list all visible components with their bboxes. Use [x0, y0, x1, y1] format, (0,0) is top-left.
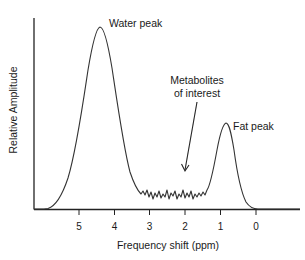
tick-label-1: 1: [218, 221, 224, 232]
water-peak-label: Water peak: [109, 17, 163, 29]
tick-label-5: 5: [76, 221, 82, 232]
metabolites-arrow-icon: [182, 102, 198, 171]
spectrum-line: [34, 27, 300, 209]
tick-label-3: 3: [147, 221, 153, 232]
tick-label-0: 0: [253, 221, 259, 232]
fat-peak-label: Fat peak: [233, 120, 275, 132]
metabolites-label-line2: of interest: [174, 87, 220, 99]
spectrum-chart: 5 4 3 2 1 0 Frequency shift (ppm) Relati…: [0, 0, 305, 260]
tick-label-4: 4: [112, 221, 118, 232]
x-axis-title: Frequency shift (ppm): [117, 239, 219, 251]
tick-label-2: 2: [182, 221, 188, 232]
metabolites-label-line1: Metabolites: [170, 74, 224, 86]
y-axis-title: Relative Amplitude: [7, 66, 19, 153]
x-tick-labels: 5 4 3 2 1 0: [76, 221, 259, 232]
